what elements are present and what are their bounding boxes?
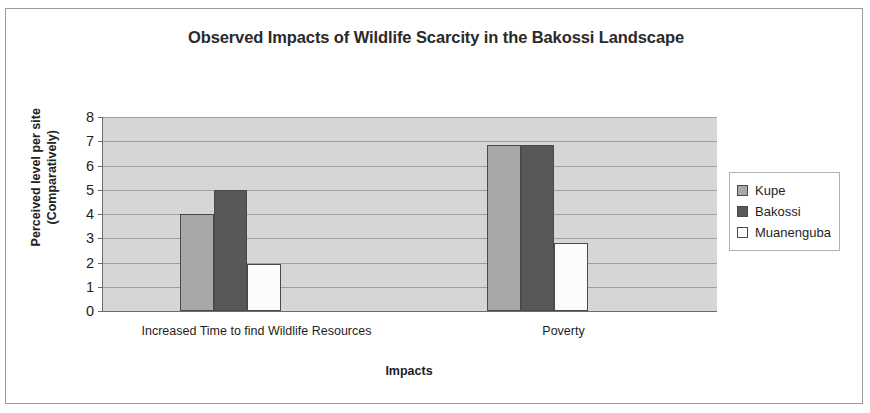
y-axis-tick-label: 1 xyxy=(86,279,94,295)
legend-label: Bakossi xyxy=(755,204,801,219)
gridline xyxy=(103,166,717,167)
y-axis-title: Perceived level per site (Comparatively) xyxy=(28,77,61,277)
legend-label: Kupe xyxy=(755,183,785,198)
bar-kupe-1 xyxy=(487,145,521,311)
bar-bakossi-1 xyxy=(521,145,555,311)
y-axis-tick-label: 4 xyxy=(86,206,94,222)
y-axis-tick xyxy=(98,141,103,142)
y-axis-tick-label: 8 xyxy=(86,109,94,125)
bar-muanenguba-1 xyxy=(554,243,588,311)
y-axis-tick xyxy=(98,190,103,191)
y-axis-tick-label: 6 xyxy=(86,158,94,174)
y-axis-tick-label: 7 xyxy=(86,133,94,149)
y-axis-tick xyxy=(98,214,103,215)
legend-label: Muanenguba xyxy=(755,225,831,240)
gridline xyxy=(103,190,717,191)
y-axis-tick xyxy=(98,287,103,288)
chart-frame: Observed Impacts of Wildlife Scarcity in… xyxy=(5,8,863,404)
x-axis-category-label: Increased Time to find Wildlife Resource… xyxy=(103,323,410,340)
bar-kupe-0 xyxy=(180,214,214,311)
legend-item-kupe: Kupe xyxy=(737,180,831,201)
y-axis-tick xyxy=(98,117,103,118)
y-axis-tick-label: 3 xyxy=(86,230,94,246)
bar-muanenguba-0 xyxy=(247,264,281,311)
chart-legend: KupeBakossiMuanenguba xyxy=(729,172,840,251)
plot-area: 012345678 Increased Time to find Wildlif… xyxy=(102,117,717,312)
y-axis-tick-label: 0 xyxy=(86,303,94,319)
gridline xyxy=(103,117,717,118)
legend-item-muanenguba: Muanenguba xyxy=(737,222,831,243)
y-axis-tick-label: 5 xyxy=(86,182,94,198)
y-axis-tick-label: 2 xyxy=(86,255,94,271)
y-axis-tick xyxy=(98,238,103,239)
legend-item-bakossi: Bakossi xyxy=(737,201,831,222)
y-axis-tick xyxy=(98,311,103,312)
y-axis-tick xyxy=(98,166,103,167)
x-axis-category-label: Poverty xyxy=(410,323,717,340)
gridline xyxy=(103,141,717,142)
chart-title: Observed Impacts of Wildlife Scarcity in… xyxy=(126,27,746,48)
bar-bakossi-0 xyxy=(214,190,248,311)
legend-swatch-icon xyxy=(737,185,748,196)
x-axis-title: Impacts xyxy=(102,364,716,378)
y-axis-tick xyxy=(98,263,103,264)
legend-swatch-icon xyxy=(737,227,748,238)
legend-swatch-icon xyxy=(737,206,748,217)
